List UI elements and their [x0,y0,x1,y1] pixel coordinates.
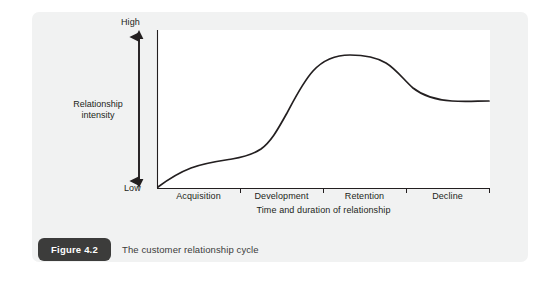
x-axis-title: Time and duration of relationship [157,205,490,215]
figure-caption: The customer relationship cycle [122,244,259,255]
stage-label-acquisition: Acquisition [157,191,240,201]
y-axis-title-line-2: intensity [52,110,144,121]
y-axis-low-label: Low [124,183,141,193]
stage-label-retention: Retention [323,191,406,201]
y-axis-title-line-1: Relationship [52,99,144,110]
y-axis-high-label: High [121,17,140,27]
intensity-arrow-head-up [135,30,144,39]
figure-number-badge: Figure 4.2 [38,238,111,261]
stage-label-development: Development [240,191,323,201]
relationship-curve [158,55,489,187]
stage-label-decline: Decline [406,191,489,201]
y-axis-title: Relationship intensity [52,99,144,121]
